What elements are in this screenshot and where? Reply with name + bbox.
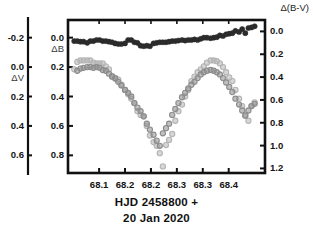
data-point <box>166 121 171 126</box>
data-point <box>243 113 248 118</box>
right-tick-label: 0.0 <box>270 25 283 36</box>
caption-line-1: HJD 2458800 + <box>0 196 313 208</box>
light-curve-figure: Δ(B-V) -0.20.00.20.40.6 0.00.20.40.60.8 … <box>0 0 313 236</box>
data-point <box>166 137 171 142</box>
right-tick-label: 1.2 <box>270 162 283 173</box>
data-point <box>151 132 156 137</box>
data-point <box>170 131 175 136</box>
left-inner-axis-name: ΔB <box>34 43 64 54</box>
data-point <box>141 114 146 119</box>
data-point <box>230 89 235 94</box>
data-point <box>154 138 159 143</box>
left-outer-axis-name: ΔV <box>0 72 24 83</box>
data-point <box>252 24 257 29</box>
data-point <box>160 131 165 136</box>
left-outer-tick-label: 0.6 <box>0 149 24 160</box>
left-outer-tick-label: -0.2 <box>0 32 24 43</box>
x-tick-label: 68.3 <box>189 179 217 190</box>
left-outer-tick-label: 0.0 <box>0 61 24 72</box>
data-point <box>170 112 175 117</box>
data-point <box>173 118 178 123</box>
data-point <box>119 83 124 88</box>
left-inner-tick-label: 0.4 <box>34 91 64 102</box>
x-tick-label: 68.4 <box>215 179 243 190</box>
data-point <box>176 101 181 106</box>
data-point <box>157 151 162 156</box>
left-inner-tick-label: 0.6 <box>34 120 64 131</box>
data-point <box>144 121 149 126</box>
data-point <box>173 106 178 111</box>
x-tick-label: 68.3 <box>163 179 191 190</box>
data-point <box>240 108 245 113</box>
left-outer-tick-label: 0.2 <box>0 91 24 102</box>
right-tick-label: 0.8 <box>270 117 283 128</box>
left-inner-tick-label: 0.0 <box>34 32 64 43</box>
data-point <box>246 118 251 123</box>
right-tick-label: 0.2 <box>270 48 283 59</box>
data-point <box>227 84 232 89</box>
right-tick-label: 0.4 <box>270 71 283 82</box>
right-axis-title: Δ(B-V) <box>280 2 309 13</box>
right-tick-label: 0.6 <box>270 94 283 105</box>
data-point <box>230 78 235 83</box>
caption-line-2: 20 Jan 2020 <box>0 212 313 224</box>
data-point <box>220 64 225 69</box>
data-point <box>160 164 165 169</box>
data-point <box>252 101 257 106</box>
left-outer-tick-label: 0.4 <box>0 120 24 131</box>
data-point <box>243 31 248 36</box>
left-inner-tick-label: 0.2 <box>34 61 64 72</box>
data-point <box>236 102 241 107</box>
data-point <box>163 142 168 147</box>
x-tick-label: 68.2 <box>111 179 139 190</box>
data-point <box>129 94 134 99</box>
x-tick-label: 68.1 <box>85 179 113 190</box>
left-inner-tick-label: 0.8 <box>34 149 64 160</box>
data-point <box>138 109 143 114</box>
x-tick-label: 68.2 <box>137 179 165 190</box>
data-point <box>147 127 152 132</box>
data-point <box>233 96 238 101</box>
data-point <box>157 143 162 148</box>
right-tick-label: 1.0 <box>270 140 283 151</box>
data-point <box>224 70 229 75</box>
